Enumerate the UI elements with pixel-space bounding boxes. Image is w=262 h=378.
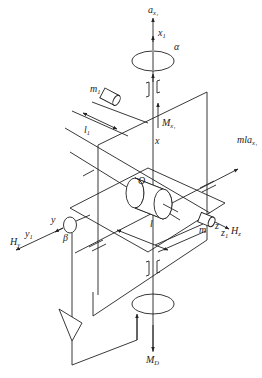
label-H-z: Hz bbox=[230, 225, 241, 237]
label-z1: z1 bbox=[220, 227, 228, 239]
label-z: z bbox=[214, 220, 219, 231]
label-mla-x1: mlax₁ bbox=[237, 134, 257, 146]
label-alpha: α bbox=[174, 41, 180, 52]
label-H-y: Hy bbox=[9, 236, 20, 248]
label-M-x1: Mx₁ bbox=[161, 117, 176, 129]
amplifier-triangle bbox=[59, 309, 82, 341]
beta-pickoff bbox=[64, 217, 77, 233]
label-O: O bbox=[138, 175, 145, 186]
label-a-x1: ax₁ bbox=[148, 4, 158, 16]
label-M-D: MD bbox=[145, 354, 159, 366]
label-l1: l1 bbox=[84, 124, 90, 136]
label-m1: m1 bbox=[90, 83, 100, 95]
label-y1: y1 bbox=[24, 228, 33, 240]
label-l: l bbox=[150, 218, 153, 229]
label-beta: β bbox=[62, 232, 68, 243]
gyro-schematic-diagram: ax₁ x1 α m1 l1 Mx₁ x mlax₁ O y y1 Hy β l… bbox=[0, 0, 262, 378]
label-y: y bbox=[50, 214, 56, 225]
label-x: x bbox=[154, 135, 160, 146]
gyro-rotor bbox=[126, 178, 178, 219]
label-m: m bbox=[199, 224, 206, 235]
label-x1: x1 bbox=[157, 27, 166, 39]
l1-dimension bbox=[83, 113, 117, 129]
